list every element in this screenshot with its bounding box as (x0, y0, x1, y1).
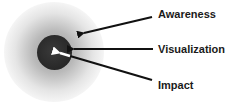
label-visualization: Visualization (158, 43, 225, 55)
awareness-visualization-impact-diagram: Awareness Visualization Impact (0, 0, 228, 103)
label-awareness: Awareness (158, 8, 216, 20)
awareness-arrow (84, 17, 152, 33)
impact-arrow (60, 53, 152, 80)
label-impact: Impact (158, 79, 193, 91)
